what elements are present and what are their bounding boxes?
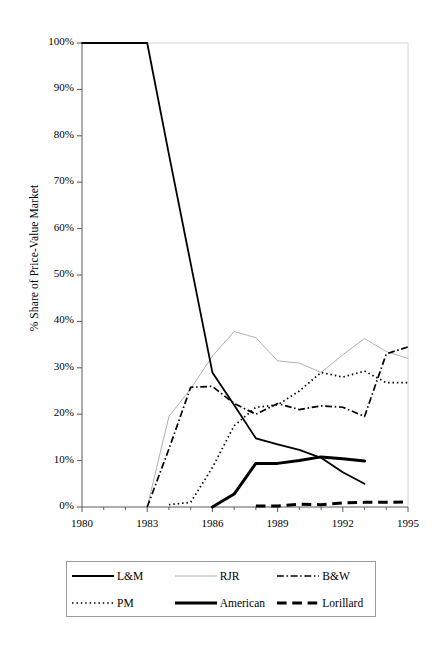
y-axis-tick-label: 90% — [20, 81, 74, 93]
y-axis-tick-label: 100% — [20, 35, 74, 47]
legend-entry-b-w: B&W — [272, 562, 375, 589]
legend-entry-american: American — [170, 589, 273, 616]
y-axis-tick-label: 10% — [20, 453, 74, 465]
legend-label: B&W — [320, 570, 349, 582]
y-axis-tick-label: 40% — [20, 313, 74, 325]
y-axis-tick-label: 70% — [20, 174, 74, 186]
x-axis-tick-label: 1980 — [52, 517, 112, 529]
legend-label: L&M — [115, 570, 143, 582]
legend-label: American — [218, 597, 265, 609]
x-axis-tick-label: 1986 — [182, 517, 242, 529]
chart-plot-region: % Share of Price-Value Market 0%10%20%30… — [0, 0, 441, 548]
y-axis-tick-label: 0% — [20, 499, 74, 511]
legend-label: Lorillard — [320, 597, 363, 609]
legend-entry-pm: PM — [67, 589, 170, 616]
legend-line-sample — [174, 597, 218, 609]
y-axis-tick-label: 50% — [20, 267, 74, 279]
legend-line-sample — [276, 570, 320, 582]
y-axis-tick-label: 60% — [20, 221, 74, 233]
series-line-rjr — [147, 332, 408, 507]
series-line-l-m — [82, 43, 365, 484]
x-axis-tick-label: 1989 — [248, 517, 308, 529]
legend-line-sample — [71, 597, 115, 609]
legend-grid: L&MRJRB&WPMAmericanLorillard — [67, 562, 375, 616]
figure: % Share of Price-Value Market 0%10%20%30… — [0, 0, 441, 646]
legend-entry-lorillard: Lorillard — [272, 589, 375, 616]
y-axis-tick-label: 80% — [20, 128, 74, 140]
series-line-lorillard — [256, 502, 408, 506]
x-axis-tick-label: 1995 — [378, 517, 438, 529]
legend-line-sample — [276, 597, 320, 609]
legend-entry-l-m: L&M — [67, 562, 170, 589]
y-axis-title: % Share of Price-Value Market — [28, 128, 40, 388]
legend-line-sample — [174, 570, 218, 582]
legend-line-sample — [71, 570, 115, 582]
legend-label: PM — [115, 597, 134, 609]
series-line-american — [212, 457, 364, 507]
series-line-b-w — [147, 347, 408, 507]
y-axis-tick-label: 20% — [20, 406, 74, 418]
x-axis-tick-label: 1992 — [313, 517, 373, 529]
legend-entry-rjr: RJR — [170, 562, 273, 589]
y-axis-tick-label: 30% — [20, 360, 74, 372]
chart-legend: L&MRJRB&WPMAmericanLorillard — [66, 561, 376, 617]
series-line-pm — [169, 371, 408, 505]
legend-label: RJR — [218, 570, 240, 582]
x-axis-tick-label: 1983 — [117, 517, 177, 529]
